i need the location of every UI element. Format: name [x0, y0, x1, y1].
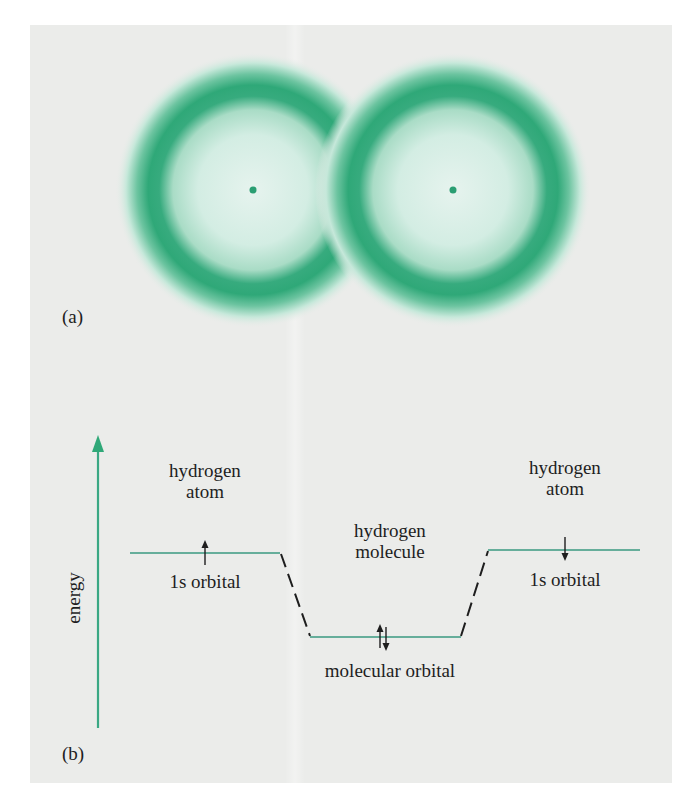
left-atom-title-line2: atom: [145, 481, 265, 502]
energy-axis-label: energy: [63, 568, 85, 628]
molecule-title-line2: molecule: [330, 541, 450, 562]
panel-b-label: (b): [62, 743, 84, 765]
left-nucleus-dot: [250, 187, 257, 194]
right-correlation-dashed-line: [461, 551, 488, 636]
energy-axis: [92, 435, 104, 728]
energy-levels: [130, 550, 640, 637]
panel-a-label: (a): [62, 306, 83, 328]
right-orbital-label: 1s orbital: [505, 569, 625, 590]
right-atom-title-line1: hydrogen: [505, 457, 625, 478]
left-correlation-dashed-line: [281, 554, 310, 636]
diagram-canvas: [0, 0, 697, 810]
left-atom-title: hydrogen atom: [145, 460, 265, 502]
right-atom-title: hydrogen atom: [505, 457, 625, 499]
right-atom-title-line2: atom: [505, 478, 625, 499]
molecule-title-line1: hydrogen: [330, 520, 450, 541]
left-orbital-label: 1s orbital: [145, 571, 265, 592]
molecular-orbital-label: molecular orbital: [290, 660, 490, 681]
molecule-title: hydrogen molecule: [330, 520, 450, 562]
left-atom-title-line1: hydrogen: [145, 460, 265, 481]
right-electron-down-arrow-icon: [562, 537, 569, 561]
energy-arrow-head-icon: [92, 435, 104, 452]
right-nucleus-dot: [450, 187, 457, 194]
panel-a-orbitals: [115, 52, 591, 328]
